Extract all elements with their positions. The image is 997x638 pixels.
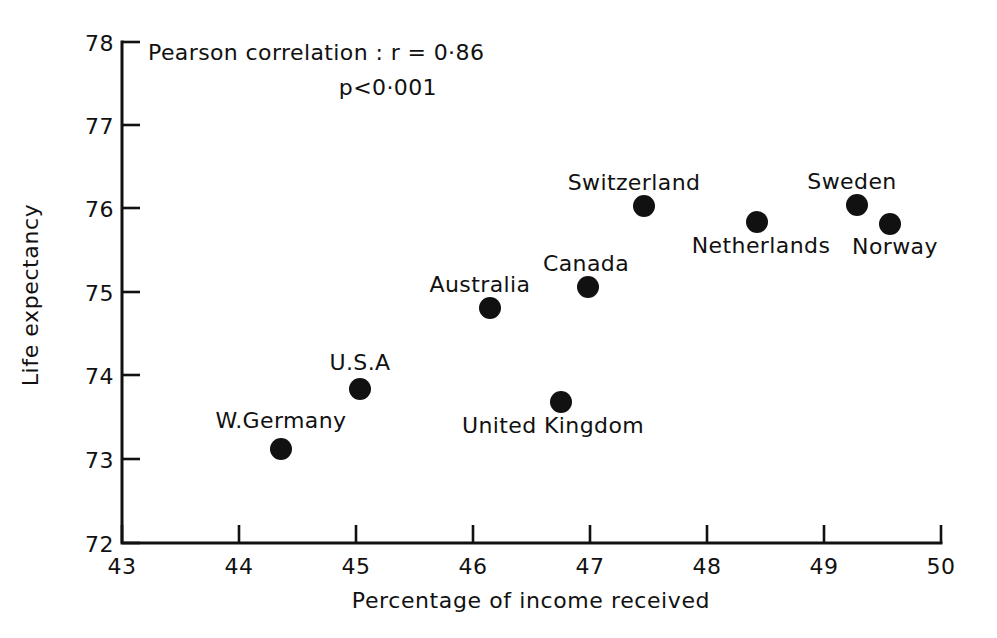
- x-tick-label-49: 49: [810, 554, 839, 579]
- point-label-usa: U.S.A: [329, 350, 390, 375]
- x-tick-label-46: 46: [459, 554, 488, 579]
- y-tick-label-74: 74: [85, 364, 114, 389]
- marker-switzerland[interactable]: [633, 195, 655, 217]
- x-tick-label-47: 47: [576, 554, 605, 579]
- data-points: W.Germany U.S.A Australia United Kingdom…: [216, 169, 938, 460]
- point-label-netherlands: Netherlands: [692, 233, 831, 258]
- y-tick-label-76: 76: [85, 197, 114, 222]
- y-axis-title: Life expectancy: [18, 204, 43, 387]
- point-label-sweden: Sweden: [807, 169, 896, 194]
- marker-canada[interactable]: [577, 276, 599, 298]
- point-label-united-kingdom: United Kingdom: [462, 413, 644, 438]
- marker-united-kingdom[interactable]: [550, 391, 572, 413]
- p-value-text: p<0·001: [339, 75, 437, 100]
- y-tick-label-78: 78: [85, 31, 114, 56]
- x-axis-title: Percentage of income received: [352, 588, 710, 613]
- point-label-norway: Norway: [852, 234, 938, 259]
- data-point-usa[interactable]: U.S.A: [329, 350, 390, 400]
- x-tick-label-50: 50: [927, 554, 956, 579]
- marker-netherlands[interactable]: [746, 211, 768, 233]
- marker-sweden[interactable]: [846, 194, 868, 216]
- scatter-plot-figure: 78 77 76 75 74 73 72 43 44 45 46 47 48: [0, 0, 997, 638]
- x-tick-label-48: 48: [693, 554, 722, 579]
- data-point-sweden[interactable]: Sweden: [807, 169, 896, 216]
- chart-canvas: 78 77 76 75 74 73 72 43 44 45 46 47 48: [0, 0, 997, 638]
- data-point-australia[interactable]: Australia: [430, 272, 531, 319]
- y-tick-label-73: 73: [85, 448, 114, 473]
- data-point-switzerland[interactable]: Switzerland: [568, 170, 701, 217]
- marker-norway[interactable]: [879, 213, 901, 235]
- data-point-netherlands[interactable]: Netherlands: [692, 211, 831, 258]
- point-label-australia: Australia: [430, 272, 531, 297]
- axis-lines: [122, 42, 941, 543]
- marker-usa[interactable]: [349, 378, 371, 400]
- data-point-norway[interactable]: Norway: [852, 213, 938, 259]
- x-tick-label-44: 44: [225, 554, 254, 579]
- x-axis-ticks: [122, 525, 941, 543]
- y-tick-label-77: 77: [85, 114, 114, 139]
- point-label-switzerland: Switzerland: [568, 170, 701, 195]
- y-tick-label-75: 75: [85, 281, 114, 306]
- marker-w-germany[interactable]: [270, 438, 292, 460]
- marker-australia[interactable]: [479, 297, 501, 319]
- y-axis-tick-labels: 78 77 76 75 74 73 72: [85, 31, 114, 557]
- point-label-canada: Canada: [543, 251, 629, 276]
- pearson-correlation-text: Pearson correlation : r = 0·86: [148, 40, 484, 65]
- x-axis-tick-labels: 43 44 45 46 47 48 49 50: [108, 554, 956, 579]
- point-label-w-germany: W.Germany: [216, 408, 347, 433]
- y-axis-ticks: [122, 42, 140, 543]
- x-tick-label-43: 43: [108, 554, 137, 579]
- statistics-annotation: Pearson correlation : r = 0·86 p<0·001: [148, 40, 484, 100]
- data-point-united-kingdom[interactable]: United Kingdom: [462, 391, 644, 438]
- data-point-canada[interactable]: Canada: [543, 251, 629, 298]
- data-point-w-germany[interactable]: W.Germany: [216, 408, 347, 460]
- x-tick-label-45: 45: [342, 554, 371, 579]
